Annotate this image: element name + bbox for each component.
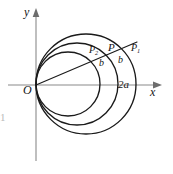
segment-b-outer-label: b: [118, 55, 123, 65]
point-p-label: P: [108, 42, 115, 53]
point-p1-label: P1: [131, 43, 140, 54]
point-p2-label: P2: [89, 45, 98, 56]
origin-label: O: [23, 84, 32, 96]
x-axis-label: x: [150, 86, 155, 98]
segment-b-inner-label: b: [99, 58, 104, 68]
margin-mark-label: 1: [0, 112, 6, 123]
point-p2-subscript: 2: [95, 49, 98, 56]
diameter-2a-label: 2a: [118, 79, 129, 90]
y-axis-label: y: [24, 6, 29, 18]
y-axis-arrowhead: [33, 8, 40, 17]
point-p1-subscript: 1: [137, 47, 140, 54]
figure-container: y x O P2 P P1 b b 2a 1: [0, 0, 173, 174]
